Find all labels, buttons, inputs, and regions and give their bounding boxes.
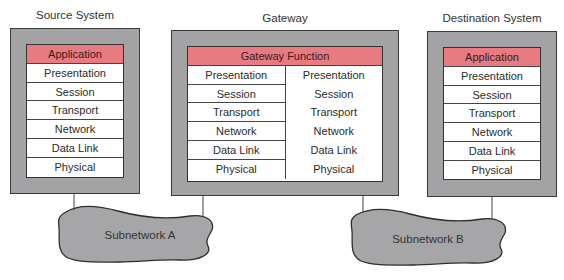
gateway-row-data-link: Data Link Data Link — [188, 141, 382, 160]
gateway-stack: Gateway Function Presentation Presentati… — [187, 46, 383, 182]
layer-network-right: Network — [286, 122, 383, 141]
gateway-row-transport: Transport Transport — [188, 103, 382, 122]
layer-application: Application — [444, 48, 540, 67]
gateway-row-network: Network Network — [188, 122, 382, 141]
gateway-function: Gateway Function — [188, 47, 382, 66]
layer-physical: Physical — [444, 161, 540, 180]
layer-physical-left: Physical — [188, 160, 286, 179]
layer-presentation: Presentation — [27, 64, 123, 83]
source-system-title: Source System — [10, 9, 140, 21]
layer-application: Application — [27, 45, 123, 64]
layer-network-left: Network — [188, 122, 286, 141]
layer-network: Network — [27, 120, 123, 139]
subnetwork-a-label: Subnetwork A — [90, 229, 190, 241]
gateway-row-physical: Physical Physical — [188, 160, 382, 179]
layer-presentation-right: Presentation — [286, 66, 383, 85]
layer-presentation-left: Presentation — [188, 66, 286, 85]
layer-transport-left: Transport — [188, 103, 286, 122]
gateway-title: Gateway — [171, 12, 399, 24]
layer-data-link-right: Data Link — [286, 141, 383, 160]
layer-physical-right: Physical — [286, 160, 383, 179]
layer-data-link: Data Link — [27, 139, 123, 158]
layer-data-link: Data Link — [444, 142, 540, 161]
source-system-stack: Application Presentation Session Transpo… — [26, 44, 124, 178]
layer-session-right: Session — [286, 85, 383, 104]
layer-session-left: Session — [188, 85, 286, 104]
layer-data-link-left: Data Link — [188, 141, 286, 160]
layer-transport-right: Transport — [286, 103, 383, 122]
layer-network: Network — [444, 123, 540, 142]
gateway-row-presentation: Presentation Presentation — [188, 66, 382, 85]
layer-physical: Physical — [27, 158, 123, 177]
layer-session: Session — [27, 83, 123, 102]
layer-session: Session — [444, 86, 540, 105]
layer-presentation: Presentation — [444, 67, 540, 86]
gateway-row-session: Session Session — [188, 85, 382, 104]
destination-system-stack: Application Presentation Session Transpo… — [443, 47, 541, 180]
destination-system-title: Destination System — [420, 12, 564, 24]
layer-transport: Transport — [27, 101, 123, 120]
subnetwork-b-label: Subnetwork B — [378, 233, 478, 245]
layer-transport: Transport — [444, 104, 540, 123]
